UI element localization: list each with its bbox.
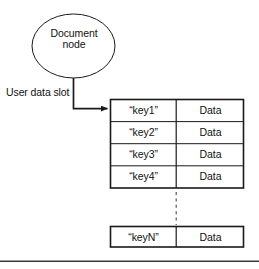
last-row-value: Data <box>177 231 244 243</box>
table-cell-key: “key2” <box>111 126 176 138</box>
table-cell-key: “key3” <box>111 148 176 160</box>
table-cell-value: Data <box>177 170 244 182</box>
table-cell-key: “key4” <box>111 170 176 182</box>
diagram-canvas: Document node User data slot “key1” Data… <box>0 0 259 269</box>
table-cell-value: Data <box>177 104 244 116</box>
user-data-slot-connector <box>74 78 108 109</box>
table-cell-value: Data <box>177 148 244 160</box>
document-node-ellipse <box>32 14 115 78</box>
footer-caption <box>34 262 234 269</box>
table-cell-key: “key1” <box>111 104 176 116</box>
last-row-key: “keyN” <box>111 231 176 243</box>
table-cell-value: Data <box>177 126 244 138</box>
